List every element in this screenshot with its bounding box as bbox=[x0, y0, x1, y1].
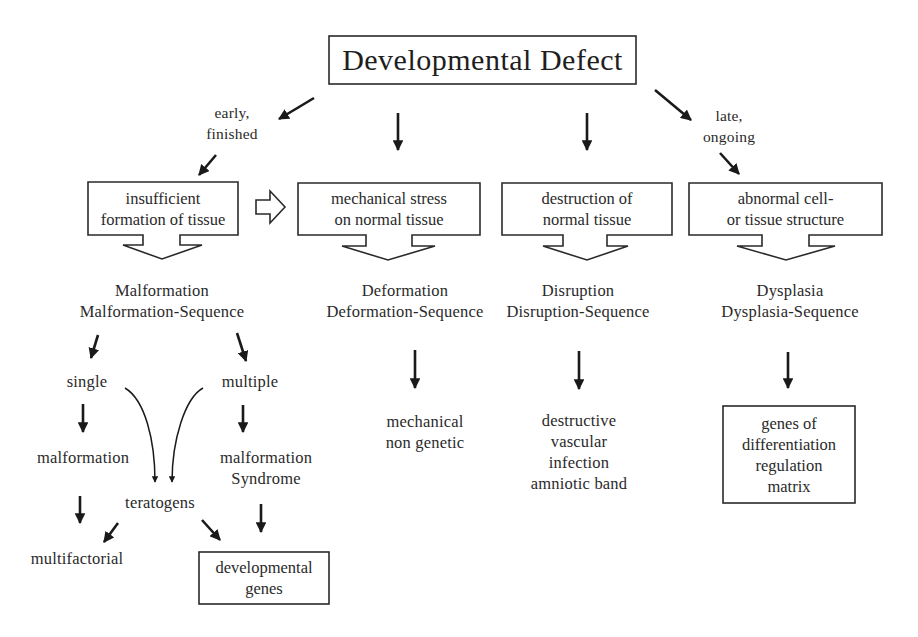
category-line: Malformation bbox=[80, 280, 245, 301]
category-deformation: Deformation Deformation-Sequence bbox=[326, 280, 483, 322]
genes-line: genes bbox=[245, 578, 283, 599]
arrow-teratogens-genes-icon bbox=[202, 520, 220, 540]
arrow-early-to-box-icon bbox=[199, 155, 216, 175]
cause-line: on normal tissue bbox=[334, 209, 443, 230]
teratogens-label: teratogens bbox=[125, 492, 195, 513]
block-arrow-right-icon bbox=[256, 191, 285, 223]
developmental-genes-text: developmental genes bbox=[199, 552, 329, 604]
cause-item: matrix bbox=[767, 476, 810, 497]
arrow-to-single-icon bbox=[91, 335, 98, 358]
malformation-syndrome-label: malformation Syndrome bbox=[220, 447, 312, 489]
cause-item: destructive bbox=[531, 410, 628, 431]
category-line: Deformation-Sequence bbox=[326, 301, 483, 322]
cause-item: differentiation bbox=[742, 434, 836, 455]
cause-line: destruction of bbox=[541, 188, 632, 209]
cause-item: non genetic bbox=[386, 432, 465, 453]
cause-item: infection bbox=[531, 452, 628, 473]
deformation-causes: mechanical non genetic bbox=[386, 411, 465, 453]
category-line: Malformation-Sequence bbox=[80, 301, 245, 322]
early-label: early, bbox=[206, 102, 258, 123]
cause-item: genes of bbox=[761, 413, 816, 434]
cause-line: mechanical stress bbox=[331, 188, 447, 209]
late-label: late, bbox=[703, 105, 755, 126]
curved-arrow-single-teratogens-icon bbox=[125, 388, 155, 482]
genes-line: developmental bbox=[215, 557, 312, 578]
dysplasia-genes-text: genes of differentiation regulation matr… bbox=[723, 406, 855, 503]
syndrome-line: Syndrome bbox=[220, 468, 312, 489]
multifactorial-label: multifactorial bbox=[31, 548, 124, 569]
cause-line: or tissue structure bbox=[727, 209, 844, 230]
category-disruption: Disruption Disruption-Sequence bbox=[506, 280, 649, 322]
arrow-late-to-box-icon bbox=[720, 153, 739, 174]
finished-label: finished bbox=[206, 123, 258, 144]
diagram-title: Developmental Defect bbox=[329, 36, 636, 84]
cause-line: abnormal cell- bbox=[738, 188, 834, 209]
cause-item: amniotic band bbox=[531, 473, 628, 494]
category-malformation: Malformation Malformation-Sequence bbox=[80, 280, 245, 322]
cause-item: vascular bbox=[531, 431, 628, 452]
malformation-label: malformation bbox=[37, 447, 129, 468]
early-finished-label: early, finished bbox=[206, 102, 258, 144]
category-line: Dysplasia-Sequence bbox=[721, 301, 858, 322]
developmental-defect-diagram: Developmental Defect early, finished lat… bbox=[0, 0, 918, 637]
multiple-label: multiple bbox=[222, 371, 279, 392]
arrow-early-icon bbox=[279, 98, 314, 119]
cause-abnormal-text: abnormal cell- or tissue structure bbox=[689, 183, 882, 235]
category-line: Deformation bbox=[326, 280, 483, 301]
disruption-causes: destructive vascular infection amniotic … bbox=[531, 410, 628, 494]
late-ongoing-label: late, ongoing bbox=[703, 105, 755, 147]
single-label: single bbox=[67, 371, 108, 392]
category-line: Disruption bbox=[506, 280, 649, 301]
curved-arrow-multiple-teratogens-icon bbox=[172, 388, 203, 482]
syndrome-line: malformation bbox=[220, 447, 312, 468]
cause-item: regulation bbox=[756, 455, 823, 476]
arrow-to-multiple-icon bbox=[237, 333, 246, 361]
cause-mechanical-text: mechanical stress on normal tissue bbox=[298, 183, 480, 235]
cause-line: formation of tissue bbox=[101, 209, 226, 230]
category-dysplasia: Dysplasia Dysplasia-Sequence bbox=[721, 280, 858, 322]
cause-item: mechanical bbox=[386, 411, 465, 432]
category-line: Dysplasia bbox=[721, 280, 858, 301]
arrow-late-icon bbox=[655, 90, 691, 120]
category-line: Disruption-Sequence bbox=[506, 301, 649, 322]
cause-destruction-text: destruction of normal tissue bbox=[502, 183, 672, 235]
cause-insufficient-text: insufficient formation of tissue bbox=[88, 182, 238, 235]
cause-line: insufficient bbox=[126, 188, 201, 209]
ongoing-label: ongoing bbox=[703, 126, 755, 147]
arrow-teratogens-multifactorial-icon bbox=[104, 523, 118, 542]
cause-line: normal tissue bbox=[543, 209, 631, 230]
